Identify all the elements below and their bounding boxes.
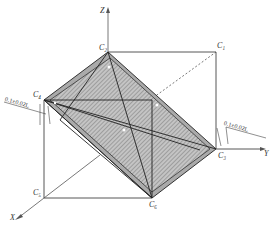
point-c3: C₃ xyxy=(218,152,226,160)
point-c6: C₆ xyxy=(149,201,157,209)
point-c5: C₅ xyxy=(33,189,41,197)
diagram-canvas xyxy=(0,0,272,234)
z-axis-label: Z xyxy=(100,7,104,15)
point-c4: C₄ xyxy=(33,91,41,99)
x-axis-label: X xyxy=(10,214,15,222)
y-axis-label: Y xyxy=(264,150,268,158)
point-c2: C₂ xyxy=(99,44,107,52)
z-arrow xyxy=(106,7,110,13)
point-c1: C₁ xyxy=(217,42,225,50)
diagram: Z Y X C₂ C₁ C₄ C₃ C₆ C₅ 0.1±0.02L 0.1±0.… xyxy=(0,0,272,234)
